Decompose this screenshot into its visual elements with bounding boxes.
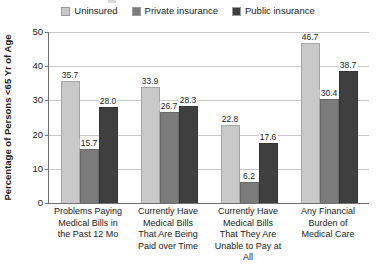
plot-area: 01020304050 35.715.728.033.926.728.322.8…	[48, 32, 369, 204]
bar-value-label: 26.7	[160, 102, 179, 111]
x-axis-category-label: Currently HaveMedical BillsThat They Are…	[208, 206, 288, 266]
x-axis-category-label-line: Medical Care	[289, 229, 367, 241]
bar-slot: 17.6	[259, 32, 278, 203]
legend-label: Public insurance	[245, 6, 315, 16]
legend-swatch-icon	[132, 7, 141, 16]
y-axis-tick-label: 30	[32, 95, 43, 105]
bar-slot: 35.7	[61, 32, 80, 203]
bar[interactable]	[320, 99, 339, 203]
bar-slot: 26.7	[160, 32, 179, 203]
bar-slot: 6.2	[240, 32, 259, 203]
bar-slot: 33.9	[141, 32, 160, 203]
cropped-title-artifact	[108, 0, 116, 3]
bar-group-bars: 22.86.217.6	[209, 32, 289, 203]
bar[interactable]	[80, 149, 99, 203]
bar[interactable]	[301, 43, 320, 203]
y-axis-tick-label: 20	[32, 130, 43, 140]
y-axis-title: Percentage of Persons <65 Yr of Age	[0, 32, 14, 203]
bar-value-label: 6.2	[242, 172, 256, 181]
bar-value-label: 35.7	[61, 71, 80, 80]
y-axis-tick-label: 10	[32, 164, 43, 174]
bar[interactable]	[61, 81, 80, 203]
bar-group: 22.86.217.6	[209, 32, 289, 203]
bar-slot: 28.0	[99, 32, 118, 203]
x-axis-labels: Problems PayingMedical Bills inthe Past …	[48, 206, 368, 266]
x-axis-category-label: Any FinancialBurden ofMedical Care	[288, 206, 368, 266]
bar[interactable]	[240, 182, 259, 203]
y-axis-tick-label: 0	[38, 198, 43, 208]
x-axis-category-label: Currently HaveMedical BillsThat Are Bein…	[128, 206, 208, 266]
bar-value-label: 28.3	[179, 96, 198, 105]
y-axis-tick-label: 40	[32, 61, 43, 71]
bar[interactable]	[221, 125, 240, 203]
bar-slot: 28.3	[179, 32, 198, 203]
legend-item-private-insurance[interactable]: Private insurance	[132, 6, 218, 16]
x-axis-category-label-line: Burden of	[289, 218, 367, 230]
bar-value-label: 38.7	[339, 61, 358, 70]
bar-slot: 15.7	[80, 32, 99, 203]
x-axis-category-label-line: Problems Paying	[49, 206, 127, 218]
bar-group-bars: 46.730.438.7	[289, 32, 369, 203]
bar-value-label: 33.9	[141, 77, 160, 86]
bar-group-bars: 33.926.728.3	[129, 32, 209, 203]
chart-legend: Uninsured Private insurance Public insur…	[0, 6, 376, 16]
bar-slot: 46.7	[301, 32, 320, 203]
x-axis-category-label-line: the Past 12 Mo	[49, 229, 127, 241]
bar[interactable]	[160, 112, 179, 203]
legend-swatch-icon	[232, 7, 241, 16]
x-axis-category-label-line: Currently Have	[129, 206, 207, 218]
bar[interactable]	[259, 143, 278, 203]
x-axis-category-label: Problems PayingMedical Bills inthe Past …	[48, 206, 128, 266]
bar-value-label: 30.4	[320, 89, 339, 98]
x-axis-category-label-line: Medical Bills	[209, 218, 287, 230]
bar-group: 33.926.728.3	[129, 32, 209, 203]
gridline	[49, 203, 369, 204]
bar-value-label: 15.7	[80, 139, 99, 148]
bar[interactable]	[141, 87, 160, 203]
bar[interactable]	[99, 107, 118, 203]
bar-value-label: 28.0	[99, 97, 118, 106]
legend-swatch-icon	[61, 7, 70, 16]
bar[interactable]	[339, 71, 358, 203]
x-axis-category-label-line: Paid over Time	[129, 241, 207, 253]
x-axis-category-label-line: Medical Bills	[129, 218, 207, 230]
x-axis-category-label-line: That They Are	[209, 229, 287, 241]
legend-label: Uninsured	[74, 6, 117, 16]
bar-value-label: 46.7	[301, 33, 320, 42]
x-axis-category-label-line: Medical Bills in	[49, 218, 127, 230]
bar-value-label: 22.8	[221, 115, 240, 124]
x-axis-category-label-line: That Are Being	[129, 229, 207, 241]
bar-slot: 22.8	[221, 32, 240, 203]
x-axis-category-label-line: Unable to Pay at All	[209, 241, 287, 264]
legend-label: Private insurance	[145, 6, 218, 16]
bar-group-bars: 35.715.728.0	[49, 32, 129, 203]
bar-group: 46.730.438.7	[289, 32, 369, 203]
y-axis-tick	[45, 203, 49, 204]
bar-groups: 35.715.728.033.926.728.322.86.217.646.73…	[49, 32, 369, 203]
bar-slot: 30.4	[320, 32, 339, 203]
x-axis-category-label-line: Any Financial	[289, 206, 367, 218]
bar[interactable]	[179, 106, 198, 203]
y-axis-tick-label: 50	[32, 27, 43, 37]
bar-value-label: 17.6	[259, 133, 278, 142]
legend-item-uninsured[interactable]: Uninsured	[61, 6, 117, 16]
bar-group: 35.715.728.0	[49, 32, 129, 203]
bar-slot: 38.7	[339, 32, 358, 203]
legend-item-public-insurance[interactable]: Public insurance	[232, 6, 315, 16]
x-axis-category-label-line: Currently Have	[209, 206, 287, 218]
